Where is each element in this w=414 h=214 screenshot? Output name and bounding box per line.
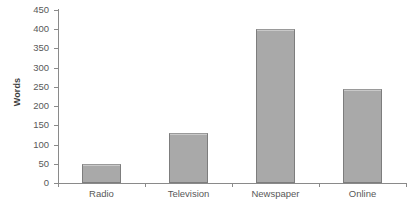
x-axis-tick-label: Radio (89, 188, 114, 199)
y-axis-tick-label: 250 (33, 81, 49, 92)
x-axis-tick-label: Television (168, 188, 210, 199)
bar (169, 133, 208, 183)
x-axis-tick-label: Online (349, 188, 376, 199)
x-axis-tick-mark (319, 183, 320, 187)
y-axis-tick-label: 100 (33, 139, 49, 150)
x-axis-tick-mark (58, 183, 59, 187)
x-axis-tick-mark (145, 183, 146, 187)
y-axis-tick-label: 300 (33, 62, 49, 73)
bar (343, 89, 382, 183)
bar (256, 29, 295, 183)
x-axis-tick-mark (232, 183, 233, 187)
x-axis-tick-mark (406, 183, 407, 187)
x-axis-tick-label: Newspaper (251, 188, 299, 199)
y-axis-tick-label: 0 (44, 177, 49, 188)
y-axis-title-text: Words (12, 77, 22, 105)
y-axis-tick-label: 150 (33, 119, 49, 130)
bar (82, 164, 121, 183)
y-axis-tick-label: 350 (33, 42, 49, 53)
y-axis-tick-label: 200 (33, 100, 49, 111)
bar-chart: Words 050100150200250300350400450 RadioT… (0, 0, 414, 214)
y-axis-tick-label: 450 (33, 4, 49, 15)
y-axis-tick-label: 50 (38, 158, 49, 169)
plot-area (58, 10, 406, 183)
y-axis-tick-label: 400 (33, 23, 49, 34)
y-axis-title: Words (6, 0, 28, 183)
